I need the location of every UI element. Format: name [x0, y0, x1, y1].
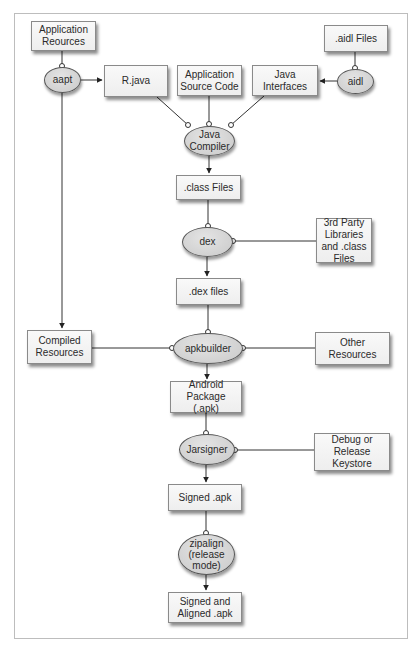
- r-java-node: R.java: [104, 65, 168, 97]
- jarsigner-tool-node: Jarsigner: [179, 434, 235, 465]
- java-compiler-tool-node: Java Compiler: [184, 126, 235, 156]
- application-source-code-node: Application Source Code: [177, 65, 242, 96]
- third-party-libraries-node: 3rd Party Libraries and .class Files: [316, 218, 372, 263]
- android-build-diagram: Application Reources .aidl Files R.java …: [0, 0, 418, 654]
- other-resources-node: Other Resources: [315, 332, 390, 365]
- dex-tool-node: dex: [182, 227, 233, 257]
- dex-files-node: .dex files: [176, 278, 241, 305]
- aidl-tool-node: aidl: [337, 69, 374, 94]
- aapt-tool-node: aapt: [44, 67, 81, 93]
- signed-aligned-apk-node: Signed and Aligned .apk: [168, 592, 242, 623]
- java-interfaces-node: Java Interfaces: [252, 65, 318, 96]
- class-files-node: .class Files: [176, 175, 241, 200]
- apkbuilder-tool-node: apkbuilder: [173, 333, 243, 364]
- keystore-node: Debug or Release Keystore: [314, 433, 390, 471]
- signed-apk-node: Signed .apk: [168, 484, 242, 511]
- zipalign-tool-node: zipalign (release mode): [178, 534, 235, 575]
- compiled-resources-node: Compiled Resources: [27, 330, 92, 364]
- aidl-files-node: .aidl Files: [324, 25, 388, 52]
- android-package-node: Android Package (.apk): [170, 381, 242, 413]
- application-resources-node: Application Reources: [31, 21, 96, 51]
